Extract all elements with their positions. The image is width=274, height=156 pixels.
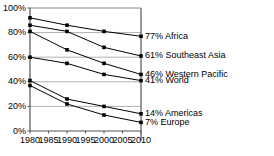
data-point-marker bbox=[65, 97, 69, 101]
gridlines bbox=[30, 8, 141, 106]
series-end-label-africa: 77% Africa bbox=[145, 32, 188, 41]
series-line bbox=[30, 31, 141, 74]
y-tick-label: 60% bbox=[8, 53, 26, 62]
data-point-marker bbox=[28, 84, 32, 88]
data-point-marker bbox=[102, 46, 106, 50]
data-point-marker bbox=[139, 112, 143, 116]
data-point-marker bbox=[102, 73, 106, 77]
data-point-marker bbox=[102, 105, 106, 109]
plot-area bbox=[0, 0, 274, 156]
data-point-marker bbox=[28, 79, 32, 83]
data-point-marker bbox=[139, 79, 143, 83]
data-point-marker bbox=[65, 48, 69, 52]
data-point-marker bbox=[102, 62, 106, 66]
series-line bbox=[30, 85, 141, 122]
data-point-marker bbox=[139, 34, 143, 38]
data-point-marker bbox=[28, 23, 32, 27]
series-end-label-world: 41% World bbox=[145, 76, 189, 85]
data-point-marker bbox=[65, 23, 69, 27]
data-point-marker bbox=[102, 30, 106, 34]
y-tick-label: 40% bbox=[8, 77, 26, 86]
series-end-label-southeast-asia: 61% Southeast Asia bbox=[145, 51, 226, 60]
data-point-marker bbox=[28, 30, 32, 34]
data-point-marker bbox=[139, 73, 143, 77]
data-point-marker bbox=[28, 55, 32, 59]
data-point-marker bbox=[139, 121, 143, 125]
series-line bbox=[30, 18, 141, 36]
data-point-marker bbox=[102, 113, 106, 117]
series-end-label-europe: 7% Europe bbox=[145, 118, 190, 127]
y-tick-label: 100% bbox=[3, 4, 26, 13]
data-point-marker bbox=[28, 16, 32, 20]
data-point-marker bbox=[65, 102, 69, 106]
series-line bbox=[30, 81, 141, 114]
series-line bbox=[30, 25, 141, 56]
data-point-marker bbox=[65, 30, 69, 34]
x-tick-label: 2010 bbox=[127, 136, 155, 145]
line-chart: 0%20%40%60%80%100% 198019851990199520002… bbox=[0, 0, 274, 156]
y-tick-label: 80% bbox=[8, 28, 26, 37]
data-point-marker bbox=[139, 54, 143, 58]
y-tick-label: 20% bbox=[8, 102, 26, 111]
data-point-marker bbox=[65, 62, 69, 66]
series-line bbox=[30, 57, 141, 80]
